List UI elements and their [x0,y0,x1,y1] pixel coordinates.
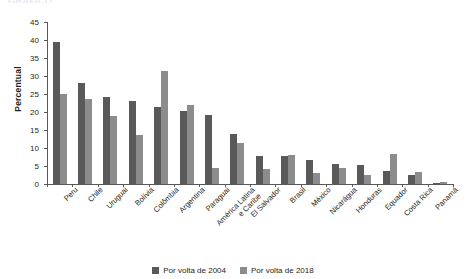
y-tick-label: 25 [30,90,39,99]
bar [383,171,390,184]
bar [205,115,212,184]
bar-group [402,22,427,184]
bar [390,154,397,184]
bar [103,97,110,184]
bar [110,116,117,184]
bar [60,94,67,184]
y-tick-label: 35 [30,54,39,63]
bar-group [47,22,72,184]
bar-groups [47,22,453,184]
bar [212,168,219,184]
bar [440,182,447,184]
y-tick-label: 5 [35,162,39,171]
bar-group [377,22,402,184]
bar-group [199,22,224,184]
bar [433,183,440,184]
legend-item[interactable]: Por volta de 2004 [152,266,226,275]
bar [154,107,161,184]
bar [281,156,288,184]
bar-group [326,22,351,184]
y-tick-label: 0 [35,180,39,189]
bar [357,165,364,184]
legend-swatch-icon [240,267,247,274]
legend-label: Por volta de 2004 [163,266,226,275]
bar-group [98,22,123,184]
bar-group [250,22,275,184]
plot-area: 051015202530354045 [47,22,453,184]
y-tick-label: 20 [30,108,39,117]
chart-legend: Por volta de 2004Por volta de 2018 [0,266,466,275]
bar [408,175,415,184]
bar [364,175,371,184]
bar [339,168,346,184]
bar [230,134,237,184]
bar [136,135,143,184]
legend-swatch-icon [152,267,159,274]
bar [313,173,320,184]
bar [78,83,85,184]
bar-chart: GRÁFICO Percentual 051015202530354045 Pe… [0,0,466,279]
bar [53,42,60,184]
y-tick-label: 10 [30,144,39,153]
bar-group [428,22,453,184]
chart-title-remnant: GRÁFICO [8,0,52,3]
legend-label: Por volta de 2018 [251,266,314,275]
bar-group [123,22,148,184]
bar-group [301,22,326,184]
bar-group [225,22,250,184]
bar [332,164,339,184]
bar-group [149,22,174,184]
bar [187,105,194,184]
x-axis-labels: PeruChileUruguaiBolíviaColômbiaArgentina… [47,186,453,256]
bar-group [275,22,300,184]
bar-group [352,22,377,184]
bar [288,155,295,184]
bar [263,169,270,184]
bar [415,172,422,184]
bar-group [72,22,97,184]
y-axis-title: Percentual [13,49,23,129]
y-tick-label: 40 [30,36,39,45]
y-tick-label: 45 [30,18,39,27]
bar [85,99,92,184]
bar [237,143,244,184]
y-tick-label: 15 [30,126,39,135]
bar [161,71,168,184]
legend-item[interactable]: Por volta de 2018 [240,266,314,275]
bar [129,101,136,184]
bar [256,156,263,184]
y-tick-label: 30 [30,72,39,81]
bar [180,111,187,184]
bar-group [174,22,199,184]
bar [306,160,313,184]
